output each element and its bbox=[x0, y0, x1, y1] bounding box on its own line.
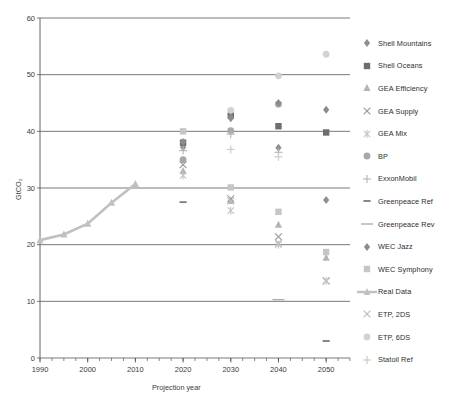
legend-item-wec-jazz[interactable]: WEC Jazz bbox=[356, 235, 469, 258]
legend-marker-diamond-icon bbox=[356, 237, 378, 257]
legend-label: Statoil Ref bbox=[378, 355, 413, 364]
marker-diamond bbox=[364, 39, 370, 47]
legend-marker-square-icon bbox=[356, 56, 378, 76]
y-tick-label: 30 bbox=[27, 184, 35, 193]
legend-marker-plus-icon bbox=[356, 350, 378, 370]
x-tick-label: 2010 bbox=[127, 365, 144, 374]
legend-marker-triangle-icon bbox=[356, 78, 378, 98]
legend-item-gea-mix[interactable]: GEA Mix bbox=[356, 122, 469, 145]
marker-diamond bbox=[323, 106, 329, 114]
legend-label: Real Data bbox=[378, 287, 411, 296]
x-axis-title: Projection year bbox=[152, 383, 201, 392]
marker-circle bbox=[364, 334, 371, 341]
y-tick-label: 50 bbox=[27, 70, 35, 79]
marker-square bbox=[323, 249, 329, 255]
legend-marker-line-triangle-icon bbox=[356, 282, 378, 302]
x-tick-label: 2040 bbox=[270, 365, 287, 374]
y-tick-label: 0 bbox=[31, 354, 35, 363]
legend-item-greenpeace-ref[interactable]: Greenpeace Ref bbox=[356, 190, 469, 213]
legend-label: GEA Efficiency bbox=[378, 84, 428, 93]
legend-marker-dash-short-icon bbox=[356, 191, 378, 211]
legend-label: Greenpeace Rev bbox=[378, 220, 435, 229]
legend-item-etp-6ds[interactable]: ETP, 6DS bbox=[356, 326, 469, 349]
marker-diamond bbox=[364, 243, 370, 251]
legend-item-wec-symphony[interactable]: WEC Symphony bbox=[356, 258, 469, 281]
y-tick-label: 20 bbox=[27, 240, 35, 249]
legend-label: WEC Symphony bbox=[378, 265, 433, 274]
x-tick-label: 2000 bbox=[79, 365, 96, 374]
legend-label: GEA Supply bbox=[378, 107, 418, 116]
y-tick-label: 40 bbox=[27, 127, 35, 136]
legend-item-shell-mountains[interactable]: Shell Mountains bbox=[356, 32, 469, 55]
marker-circle bbox=[227, 107, 234, 114]
marker-triangle bbox=[275, 221, 282, 228]
legend-label: Greenpeace Ref bbox=[378, 197, 433, 206]
x-tick-label: 2050 bbox=[318, 365, 335, 374]
legend-item-gea-supply[interactable]: GEA Supply bbox=[356, 100, 469, 123]
x-tick-label: 2020 bbox=[175, 365, 192, 374]
y-tick-label: 60 bbox=[27, 14, 35, 23]
legend-marker-x-cross-icon bbox=[356, 101, 378, 121]
legend-label: WEC Jazz bbox=[378, 242, 413, 251]
marker-square bbox=[323, 129, 329, 135]
legend-marker-circle-icon bbox=[356, 327, 378, 347]
legend-marker-plus-icon bbox=[356, 169, 378, 189]
legend-label: ExxonMobil bbox=[378, 174, 417, 183]
legend-item-gea-efficiency[interactable]: GEA Efficiency bbox=[356, 77, 469, 100]
chart-container: 0102030405060199020002010202020302040205… bbox=[0, 0, 469, 402]
marker-circle bbox=[275, 72, 282, 79]
marker-triangle bbox=[132, 180, 139, 187]
legend-item-greenpeace-rev[interactable]: Greenpeace Rev bbox=[356, 213, 469, 236]
marker-square bbox=[275, 209, 281, 215]
marker-diamond bbox=[323, 196, 329, 204]
marker-circle bbox=[364, 153, 371, 160]
legend-label: GEA Mix bbox=[378, 129, 407, 138]
y-axis-title: GtCO₂ bbox=[14, 179, 23, 200]
marker-square bbox=[275, 123, 281, 129]
legend-item-etp-2ds[interactable]: ETP, 2DS bbox=[356, 303, 469, 326]
legend-item-exxonmobil[interactable]: ExxonMobil bbox=[356, 168, 469, 191]
legend-item-real-data[interactable]: Real Data bbox=[356, 281, 469, 304]
legend-label: Shell Mountains bbox=[378, 39, 431, 48]
legend-marker-diamond-icon bbox=[356, 33, 378, 53]
marker-square bbox=[180, 128, 186, 134]
legend-marker-star-cross-icon bbox=[356, 124, 378, 144]
legend-item-bp[interactable]: BP bbox=[356, 145, 469, 168]
marker-square bbox=[228, 184, 234, 190]
legend-item-statoil-ref[interactable]: Statoil Ref bbox=[356, 348, 469, 371]
x-tick-label: 1990 bbox=[32, 365, 49, 374]
y-tick-label: 10 bbox=[27, 297, 35, 306]
chart-legend: Shell MountainsShell OceansGEA Efficienc… bbox=[356, 32, 469, 371]
legend-marker-circle-icon bbox=[356, 146, 378, 166]
legend-label: Shell Oceans bbox=[378, 61, 423, 70]
marker-circle bbox=[180, 156, 187, 163]
legend-marker-dash-long-icon bbox=[356, 214, 378, 234]
series-line-real-data bbox=[40, 184, 135, 240]
x-tick-label: 2030 bbox=[222, 365, 239, 374]
legend-label: ETP, 6DS bbox=[378, 333, 410, 342]
legend-label: BP bbox=[378, 152, 388, 161]
legend-label: ETP, 2DS bbox=[378, 310, 410, 319]
marker-triangle bbox=[363, 84, 370, 91]
legend-marker-x-cross-icon bbox=[356, 304, 378, 324]
legend-item-shell-oceans[interactable]: Shell Oceans bbox=[356, 55, 469, 78]
marker-circle bbox=[323, 51, 330, 58]
marker-square bbox=[364, 63, 370, 69]
legend-marker-square-icon bbox=[356, 259, 378, 279]
marker-square bbox=[364, 266, 370, 272]
